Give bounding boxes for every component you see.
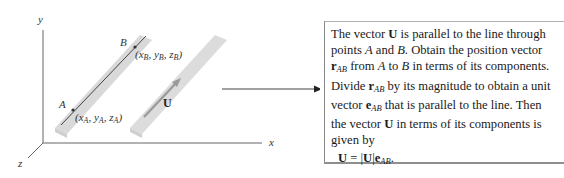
explanation-text: The vector U is parallel to the line thr… xyxy=(331,26,558,148)
vector-u-label: U xyxy=(163,96,172,111)
point-b-label: B xyxy=(120,36,127,48)
z-axis-label: z xyxy=(18,157,22,169)
y-axis-label: y xyxy=(38,13,43,25)
x-axis-label: x xyxy=(269,136,274,148)
connector-arrow xyxy=(222,86,320,93)
point-a-coords: (xA, yA, zA) xyxy=(75,111,122,125)
point-a-label: A xyxy=(59,98,66,110)
explanation-box: The vector U is parallel to the line thr… xyxy=(324,21,564,162)
point-b-coords: (xB, yB, zB) xyxy=(135,48,182,62)
z-axis xyxy=(28,143,43,158)
vector-diagram: y x z B (xB, yB, zB) A (xA, yA, zA) U xyxy=(0,0,320,178)
diagram-graphics xyxy=(0,0,320,178)
unit-vector-equation: U = |U|eAB. xyxy=(331,150,558,169)
